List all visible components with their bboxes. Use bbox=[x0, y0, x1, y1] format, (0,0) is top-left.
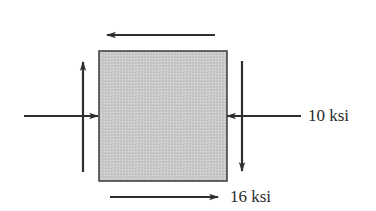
stress-element-square bbox=[99, 51, 227, 181]
stress-element-diagram: 10 ksi 16 ksi bbox=[0, 0, 376, 211]
shear-stress-label: 16 ksi bbox=[230, 188, 271, 205]
normal-stress-label: 10 ksi bbox=[308, 107, 349, 124]
